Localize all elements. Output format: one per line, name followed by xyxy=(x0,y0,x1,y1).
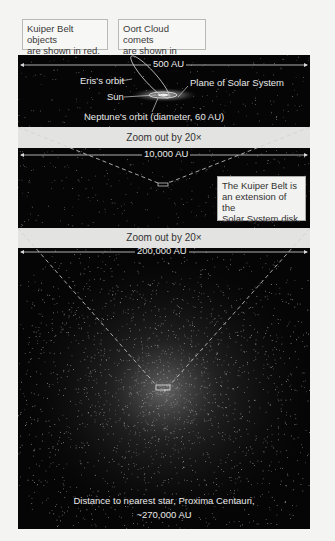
star-dot xyxy=(266,330,267,331)
star-dot xyxy=(229,334,230,335)
star-dot xyxy=(28,480,29,481)
star-dot xyxy=(143,412,144,413)
star-dot xyxy=(185,448,186,449)
star-dot xyxy=(275,159,276,160)
star-dot xyxy=(167,390,168,391)
star-dot xyxy=(210,345,211,346)
star-dot xyxy=(186,399,187,400)
star-dot xyxy=(243,330,244,331)
star-dot xyxy=(286,282,287,283)
star-dot xyxy=(161,393,162,394)
star-dot xyxy=(86,388,87,389)
star-dot xyxy=(27,480,28,481)
star-dot xyxy=(65,167,66,168)
star-dot xyxy=(189,289,190,290)
star-dot xyxy=(63,484,64,485)
star-dot xyxy=(209,457,210,458)
star-dot xyxy=(80,424,81,425)
star-dot xyxy=(138,490,139,491)
star-dot xyxy=(236,438,237,439)
star-dot xyxy=(274,383,275,384)
star-dot xyxy=(188,422,189,423)
star-dot xyxy=(196,378,197,379)
star-dot xyxy=(270,101,271,102)
star-dot xyxy=(25,425,26,426)
star-dot xyxy=(76,57,77,58)
star-dot xyxy=(93,370,94,371)
star-dot xyxy=(161,457,162,458)
star-dot xyxy=(28,286,29,287)
star-dot xyxy=(74,285,75,286)
star-dot xyxy=(142,345,143,346)
star-dot xyxy=(105,306,106,307)
star-dot xyxy=(81,328,82,329)
star-dot xyxy=(173,312,174,313)
star-dot xyxy=(133,347,134,348)
star-dot xyxy=(213,361,214,362)
star-dot xyxy=(156,290,157,291)
star-dot xyxy=(94,358,95,359)
star-dot xyxy=(183,204,184,205)
star-dot xyxy=(233,92,234,93)
star-dot xyxy=(241,336,242,337)
star-dot xyxy=(146,353,147,354)
star-dot xyxy=(202,307,203,308)
star-dot xyxy=(205,216,206,217)
star-dot xyxy=(277,395,278,396)
star-dot xyxy=(208,197,209,198)
star-dot xyxy=(68,432,69,433)
star-dot xyxy=(192,470,193,471)
star-dot xyxy=(305,164,306,165)
star-dot xyxy=(64,122,65,123)
star-dot xyxy=(282,468,283,469)
star-dot xyxy=(170,381,171,382)
star-dot xyxy=(297,460,298,461)
star-dot xyxy=(171,396,172,397)
star-dot xyxy=(200,108,201,109)
star-dot xyxy=(260,58,261,59)
star-dot xyxy=(129,337,130,338)
star-dot xyxy=(43,398,44,399)
star-dot xyxy=(135,373,136,374)
star-dot xyxy=(87,356,88,357)
star-dot xyxy=(161,405,162,406)
star-dot xyxy=(232,307,233,308)
star-dot xyxy=(172,386,173,387)
star-dot xyxy=(141,297,142,298)
star-dot xyxy=(168,291,169,292)
star-dot xyxy=(69,277,70,278)
star-dot xyxy=(149,414,150,415)
star-dot xyxy=(46,342,47,343)
star-dot xyxy=(172,478,173,479)
star-dot xyxy=(68,335,69,336)
star-dot xyxy=(34,331,35,332)
star-dot xyxy=(191,465,192,466)
star-dot xyxy=(152,291,153,292)
star-dot xyxy=(179,384,180,385)
star-dot xyxy=(262,483,263,484)
star-dot xyxy=(290,269,291,270)
star-dot xyxy=(89,286,90,287)
star-dot xyxy=(177,368,178,369)
star-dot xyxy=(201,211,202,212)
star-dot xyxy=(84,389,85,390)
zoom-out-band-2: Zoom out by 20× xyxy=(18,228,310,248)
star-dot xyxy=(173,448,174,449)
star-dot xyxy=(144,452,145,453)
star-dot xyxy=(125,406,126,407)
star-dot xyxy=(110,290,111,291)
star-dot xyxy=(192,443,193,444)
star-dot xyxy=(276,341,277,342)
star-dot xyxy=(106,424,107,425)
star-dot xyxy=(205,269,206,270)
star-dot xyxy=(167,226,168,227)
star-dot xyxy=(159,340,160,341)
star-dot xyxy=(73,281,74,282)
star-dot xyxy=(212,403,213,404)
star-dot xyxy=(161,395,162,396)
star-dot xyxy=(76,99,77,100)
star-dot xyxy=(53,372,54,373)
star-dot xyxy=(145,490,146,491)
star-dot xyxy=(127,159,128,160)
star-dot xyxy=(204,397,205,398)
